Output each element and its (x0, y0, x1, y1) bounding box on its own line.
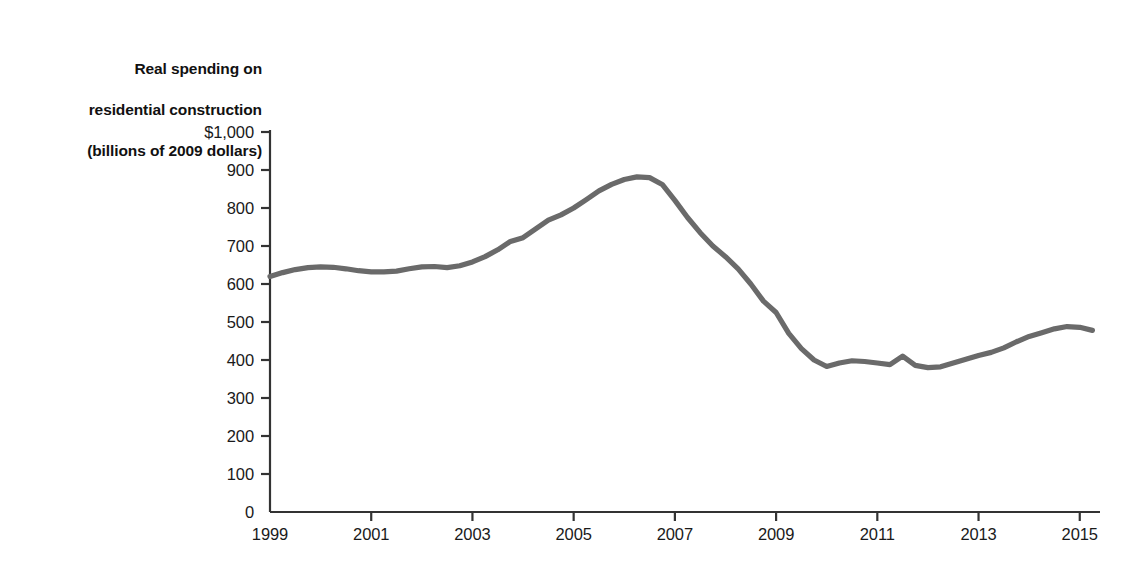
x-tick-label: 1999 (230, 526, 310, 543)
x-tick-label: 2009 (736, 526, 816, 543)
y-tick-label: 700 (227, 238, 254, 255)
x-tick-label: 2001 (331, 526, 411, 543)
y-tick-label: $1,000 (204, 124, 254, 141)
y-tick-label: 100 (227, 466, 254, 483)
x-tick-label: 2003 (432, 526, 512, 543)
x-tick-label: 2005 (534, 526, 614, 543)
data-line-series-0 (270, 177, 1092, 368)
x-tick-label: 2007 (635, 526, 715, 543)
y-tick-label: 800 (227, 200, 254, 217)
chart-figure: Real spending on residential constructio… (0, 0, 1126, 562)
x-tick-label: 2011 (837, 526, 917, 543)
y-tick-label: 0 (245, 504, 254, 521)
y-tick-label: 200 (227, 428, 254, 445)
chart-axes (261, 130, 1100, 521)
y-tick-label: 400 (227, 352, 254, 369)
chart-series-group (270, 177, 1092, 368)
y-tick-label: 600 (227, 276, 254, 293)
y-tick-label: 900 (227, 162, 254, 179)
x-tick-label: 2013 (939, 526, 1019, 543)
x-tick-label: 2015 (1040, 526, 1120, 543)
chart-plot-area (0, 0, 1126, 562)
y-tick-label: 500 (227, 314, 254, 331)
y-tick-label: 300 (227, 390, 254, 407)
